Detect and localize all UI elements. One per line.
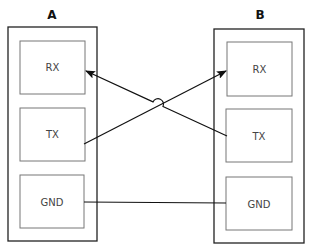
device-a-label: A xyxy=(47,8,57,22)
pin-label: RX xyxy=(253,64,267,75)
device-b-pin-rx: RX xyxy=(227,42,292,96)
device-a-pin-tx: TX xyxy=(20,108,85,161)
uart-wiring-diagram: A RX TX GND B RX TX GND xyxy=(0,0,312,247)
device-b-label: B xyxy=(255,8,264,22)
wire-gnd-to-gnd xyxy=(84,202,226,203)
device-a-pin-gnd: GND xyxy=(20,175,84,228)
device-b-pin-tx: TX xyxy=(226,109,292,162)
pin-label: RX xyxy=(46,62,60,73)
wire-a-tx-to-b-rx xyxy=(84,71,226,144)
device-b: B RX TX GND xyxy=(214,8,304,243)
pin-label: GND xyxy=(248,199,271,210)
device-b-pin-gnd: GND xyxy=(226,177,292,230)
device-a-pin-rx: RX xyxy=(20,41,85,94)
device-a: A RX TX GND xyxy=(8,8,97,241)
pin-label: TX xyxy=(252,131,266,142)
pin-label: GND xyxy=(41,197,64,208)
pin-label: TX xyxy=(45,129,59,140)
